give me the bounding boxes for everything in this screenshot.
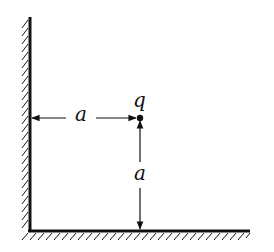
horizontal-distance-label: a	[75, 104, 87, 124]
diagram-canvas: q a a	[0, 0, 274, 252]
diagram-drawing	[0, 0, 274, 252]
charge-label: q	[133, 90, 146, 110]
vertical-distance-label: a	[134, 163, 146, 183]
horizontal-conducting-plane	[22, 231, 250, 240]
point-charge	[137, 115, 143, 121]
vertical-conducting-plane	[22, 17, 30, 231]
